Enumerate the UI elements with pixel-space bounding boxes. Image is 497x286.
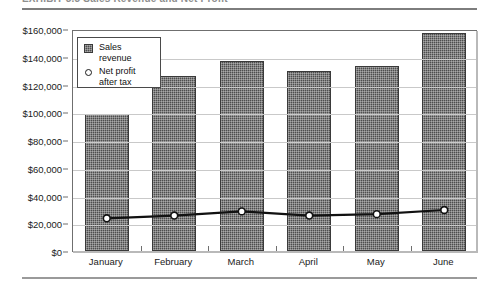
- gridline: [73, 170, 476, 171]
- x-axis-tick-mark: [411, 246, 412, 252]
- legend-label-line1: Net profit: [99, 66, 136, 76]
- legend-open-circle-icon: [85, 69, 92, 76]
- y-axis-tick-label: $20,000: [28, 219, 62, 230]
- line-path: [107, 210, 445, 218]
- x-axis-tick-label: March: [228, 256, 254, 267]
- horizontal-rule-bottom: [22, 277, 477, 279]
- y-axis-tick-mark: [63, 168, 68, 169]
- x-axis-tick-label: January: [89, 256, 123, 267]
- x-axis-tick-mark: [141, 246, 142, 252]
- gridline: [73, 142, 476, 143]
- line-data-point: [373, 211, 380, 218]
- gridline: [73, 225, 476, 226]
- legend-item-sales-revenue: Sales revenue: [83, 42, 156, 63]
- y-axis-tick-mark: [63, 141, 68, 142]
- y-axis-tick-label: $140,000: [22, 52, 62, 63]
- y-axis-tick-label: $100,000: [22, 108, 62, 119]
- figure-caption-text: EXHIBIT 5.3 Sales Revenue and Net Profit: [22, 0, 228, 4]
- y-axis-tick-label: $60,000: [28, 163, 62, 174]
- y-axis-tick-label: $120,000: [22, 80, 62, 91]
- y-axis-tick-mark: [63, 85, 68, 86]
- y-axis-tick-mark: [63, 252, 68, 253]
- legend-label-sales-revenue: Sales revenue: [99, 42, 132, 63]
- chart-legend: Sales revenue Net profit after tax: [77, 37, 161, 88]
- x-axis-tick-mark: [343, 246, 344, 252]
- x-axis: JanuaryFebruaryMarchAprilMayJune: [72, 256, 477, 272]
- legend-label-line2: revenue: [99, 53, 132, 63]
- legend-label-net-profit: Net profit after tax: [99, 66, 136, 87]
- x-axis-tick-label: June: [433, 256, 454, 267]
- figure-container: EXHIBIT 5.3 Sales Revenue and Net Profit…: [0, 0, 497, 286]
- x-axis-tick-label: April: [299, 256, 318, 267]
- legend-label-line2: after tax: [99, 77, 132, 87]
- y-axis-tick-mark: [63, 57, 68, 58]
- gridline: [73, 198, 476, 199]
- line-data-point: [103, 215, 110, 222]
- x-axis-tick-mark: [208, 246, 209, 252]
- y-axis-tick-label: $0: [51, 247, 62, 258]
- x-axis-tick-mark: [276, 246, 277, 252]
- y-axis: $0$20,000$40,000$60,000$80,000$100,000$1…: [0, 30, 68, 252]
- y-axis-tick-mark: [63, 224, 68, 225]
- line-data-point: [441, 207, 448, 214]
- x-axis-tick-label: February: [154, 256, 192, 267]
- line-data-point: [238, 208, 245, 215]
- y-axis-tick-mark: [63, 30, 68, 31]
- y-axis-tick-mark: [63, 196, 68, 197]
- y-axis-tick-label: $80,000: [28, 136, 62, 147]
- y-axis-tick-mark: [63, 113, 68, 114]
- x-axis-tick-label: May: [367, 256, 385, 267]
- legend-label-line1: Sales: [99, 42, 122, 52]
- gridline: [73, 114, 476, 115]
- legend-item-net-profit: Net profit after tax: [83, 66, 156, 87]
- legend-square-swatch-icon: [84, 44, 93, 53]
- figure-caption-clipped: EXHIBIT 5.3 Sales Revenue and Net Profit: [22, 0, 477, 7]
- y-axis-tick-label: $40,000: [28, 191, 62, 202]
- line-data-point: [306, 212, 313, 219]
- line-data-point: [171, 212, 178, 219]
- y-axis-tick-label: $160,000: [22, 25, 62, 36]
- horizontal-rule-top: [22, 8, 477, 10]
